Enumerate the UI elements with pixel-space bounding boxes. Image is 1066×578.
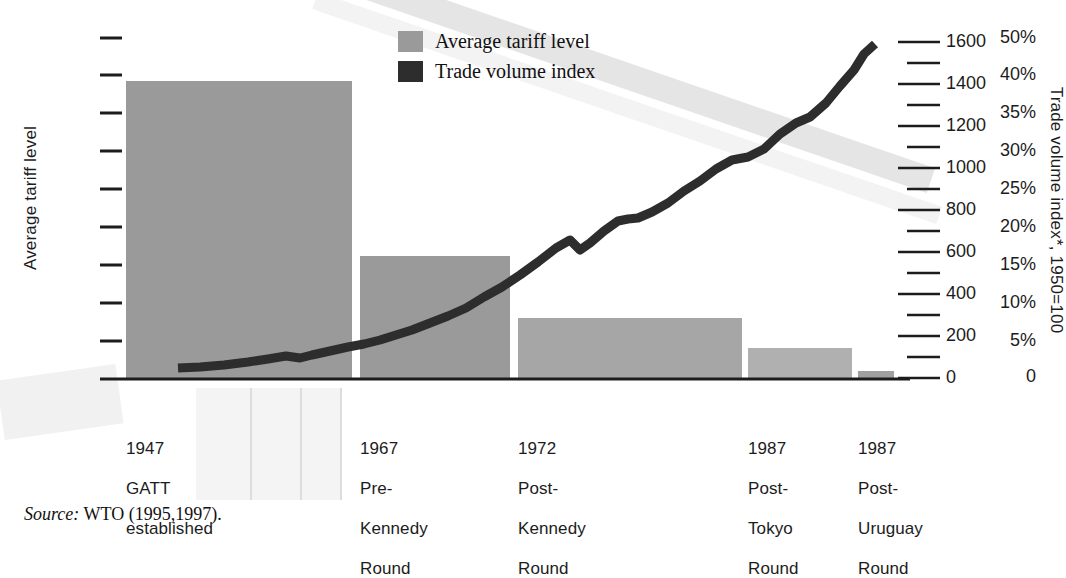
category-line3-1972: Kennedy [518,519,586,539]
legend-item-average-tariff-level[interactable]: Average tariff level [398,26,698,56]
category-line3-1987-tokyo: Tokyo [748,519,799,539]
category-line2-1967: Pre- [360,479,428,499]
category-line3-1967: Kennedy [360,519,428,539]
right-tick-label-400: 400 [946,284,976,302]
category-line2-1972: Post- [518,479,586,499]
legend-label-trade-volume-index: Trade volume index [435,60,595,83]
bar-1947 [126,81,352,378]
bar-1987-tokyo [748,348,852,378]
category-line4-1987-tokyo: Round [748,559,799,578]
chart-legend: Average tariff level Trade volume index [398,26,698,86]
legend-item-trade-volume-index[interactable]: Trade volume index [398,56,698,86]
category-line4-1987-uruguay: Round [858,559,923,578]
category-line4-1967: Round [360,559,428,578]
right-tick-label-200: 200 [946,326,976,344]
right-tick-label-800: 800 [946,200,976,218]
source-label: Source: [24,504,79,524]
legend-label-average-tariff-level: Average tariff level [435,30,590,53]
left-axis-ticks [100,38,122,341]
legend-swatch-trade-volume-index [398,61,423,82]
category-label-1967: 1967 Pre- Kennedy Round [360,419,428,578]
category-line3-1987-uruguay: Uruguay [858,519,923,539]
right-tick-label-1400: 1400 [946,74,986,92]
category-line2-1987-tokyo: Post- [748,479,799,499]
category-line4-1972: Round [518,559,586,578]
right-tick-label-0: 0 [946,368,956,386]
left-tick-label-25: 25% [940,179,1036,197]
category-label-1947: 1947 GATT established [126,419,213,559]
category-year-1987-uruguay: 1987 [858,439,923,459]
category-line2-1987-uruguay: Post- [858,479,923,499]
category-label-1987-uruguay: 1987 Post- Uruguay Round [858,419,923,578]
left-axis-title: Average tariff level [21,93,41,303]
bars-group [126,81,894,378]
right-axis-title: Trade volume index*, 1950=100 [1046,60,1066,360]
category-year-1987-tokyo: 1987 [748,439,799,459]
source-note: Source: WTO (1995,1997). [24,504,222,525]
right-axis-ticks [898,42,940,378]
source-text: WTO (1995,1997). [84,504,222,524]
bar-1972 [518,318,742,378]
category-label-1972: 1972 Post- Kennedy Round [518,419,586,578]
left-tick-label-20: 20% [940,217,1036,235]
right-tick-label-1200: 1200 [946,116,986,134]
right-tick-label-1600: 1600 [946,32,986,50]
right-tick-label-600: 600 [946,242,976,260]
category-year-1972: 1972 [518,439,586,459]
category-label-1987-tokyo: 1987 Post- Tokyo Round [748,419,799,578]
legend-swatch-average-tariff-level [398,31,423,52]
category-year-1947: 1947 [126,439,213,459]
category-year-1967: 1967 [360,439,428,459]
right-tick-label-1000: 1000 [946,158,986,176]
bar-1987-urug [858,371,894,378]
category-line2-1947: GATT [126,479,213,499]
